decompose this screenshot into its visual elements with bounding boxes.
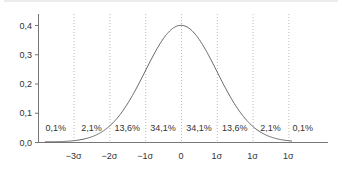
band-percentage-label: 2,1% bbox=[260, 123, 281, 133]
x-tick-label: 1σ bbox=[247, 151, 258, 161]
y-tick-label: 0,1 bbox=[19, 108, 32, 118]
band-percentage-label: 2,1% bbox=[81, 123, 102, 133]
x-tick-label: −3σ bbox=[66, 151, 82, 161]
sigma-gridlines bbox=[74, 14, 289, 142]
x-tick-label: 1σ bbox=[212, 151, 223, 161]
band-percentage-label: 13,6% bbox=[222, 123, 248, 133]
x-tick-label: 0 bbox=[178, 151, 183, 161]
x-tick-label: 1σ bbox=[283, 151, 294, 161]
normal-distribution-chart: 0,00,10,20,30,4 −3σ−2σ−1σ01σ1σ1σ 0,1%2,1… bbox=[0, 0, 342, 171]
y-tick-label: 0,2 bbox=[19, 79, 32, 89]
band-percentage-label: 34,1% bbox=[186, 123, 212, 133]
y-ticks: 0,00,10,20,30,4 bbox=[19, 21, 38, 148]
y-tick-label: 0,3 bbox=[19, 50, 32, 60]
y-tick-label: 0,0 bbox=[19, 138, 32, 148]
band-percentage-label: 13,6% bbox=[115, 123, 141, 133]
band-labels: 0,1%2,1%13,6%34,1%34,1%13,6%2,1%0,1% bbox=[45, 123, 313, 133]
x-tick-label: −2σ bbox=[101, 151, 117, 161]
x-tick-label: −1σ bbox=[137, 151, 153, 161]
band-percentage-label: 34,1% bbox=[150, 123, 176, 133]
x-ticks: −3σ−2σ−1σ01σ1σ1σ bbox=[66, 151, 294, 161]
y-tick-label: 0,4 bbox=[19, 21, 32, 31]
band-percentage-label: 0,1% bbox=[292, 123, 313, 133]
band-percentage-label: 0,1% bbox=[45, 123, 66, 133]
